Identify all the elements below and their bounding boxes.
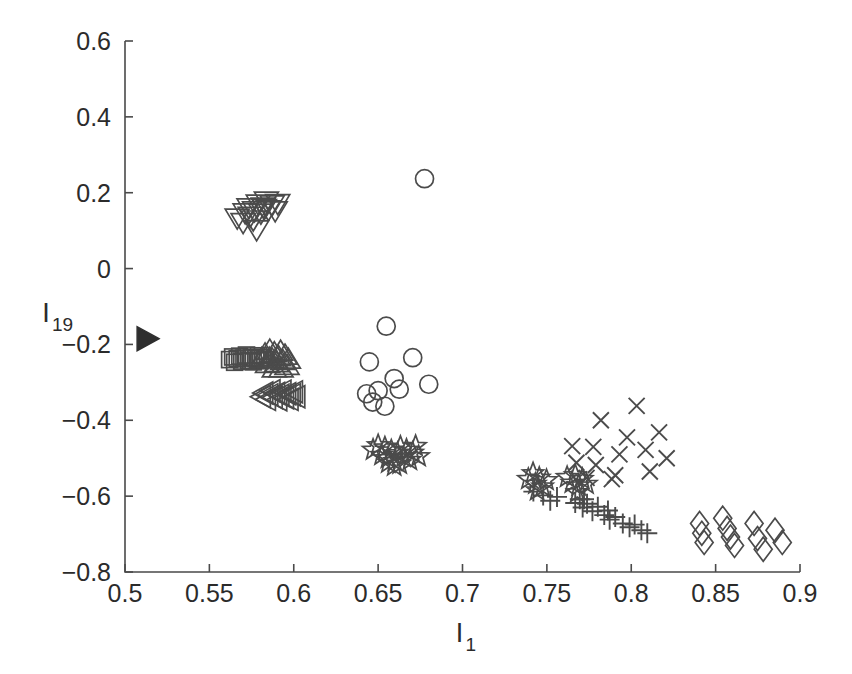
axis-spine: [125, 41, 800, 572]
data-point-x: [629, 398, 645, 414]
data-point-x: [593, 412, 609, 428]
series-circle: [358, 170, 438, 416]
x-axis-title-subscript: 1: [466, 634, 477, 655]
y-tick-label: 0.2: [76, 179, 111, 207]
data-point-triangle-right: [137, 327, 159, 351]
x-axis-tick-labels: 0.50.550.60.650.70.750.80.850.9: [108, 579, 818, 607]
data-point-x: [588, 457, 604, 473]
x-tick-label: 0.55: [185, 579, 234, 607]
tick-marks: [125, 41, 800, 572]
data-markers: [137, 170, 791, 562]
data-point-circle: [377, 317, 395, 335]
data-point-x: [642, 463, 658, 479]
data-point-circle: [404, 349, 422, 367]
y-tick-label: 0.6: [76, 27, 111, 55]
series-down-triangle: [225, 192, 290, 241]
axis-frame: [125, 41, 800, 572]
data-point-x: [585, 439, 601, 455]
y-axis-title: I19: [42, 298, 73, 335]
data-point-plus: [637, 523, 657, 543]
data-point-circle: [376, 397, 394, 415]
series-right-triangle-filled: [137, 327, 159, 351]
data-point-x: [611, 446, 627, 462]
data-point-x: [659, 450, 675, 466]
x-tick-label: 0.9: [783, 579, 818, 607]
x-axis-title-main: I: [456, 618, 464, 648]
series-diamond: [691, 506, 792, 561]
data-point-x: [619, 429, 635, 445]
data-point-x: [638, 442, 654, 458]
y-axis-title-main: I: [42, 298, 50, 328]
data-point-circle: [420, 375, 438, 393]
x-tick-label: 0.6: [276, 579, 311, 607]
x-tick-label: 0.75: [523, 579, 572, 607]
y-tick-label: 0.4: [76, 103, 111, 131]
x-tick-label: 0.8: [614, 579, 649, 607]
series-pentagram-cluster-1: [363, 434, 429, 474]
data-point-x: [651, 424, 667, 440]
plot-canvas: 0.50.550.60.650.70.750.80.850.9 0.60.40.…: [0, 0, 852, 674]
scatter-plot-figure: 0.50.550.60.650.70.750.80.850.9 0.60.40.…: [0, 0, 852, 674]
series-left-triangle: [250, 380, 304, 411]
data-point-circle: [390, 380, 408, 398]
x-tick-label: 0.65: [354, 579, 403, 607]
data-point-plus: [600, 510, 620, 530]
y-tick-label: −0.4: [62, 406, 111, 434]
y-tick-label: −0.8: [62, 558, 111, 586]
y-tick-label: −0.6: [62, 482, 111, 510]
data-point-circle: [360, 353, 378, 371]
data-point-x: [607, 467, 623, 483]
x-tick-label: 0.7: [445, 579, 480, 607]
y-axis-title-subscript: 19: [52, 314, 73, 335]
data-point-x: [564, 438, 580, 454]
y-axis-tick-labels: 0.60.40.20−0.2−0.4−0.6−0.8: [62, 27, 111, 586]
x-tick-label: 0.85: [691, 579, 740, 607]
y-tick-label: 0: [97, 255, 111, 283]
data-point-circle: [416, 170, 434, 188]
data-point-circle: [385, 370, 403, 388]
x-axis-title: I1: [456, 618, 476, 655]
x-tick-label: 0.5: [108, 579, 143, 607]
